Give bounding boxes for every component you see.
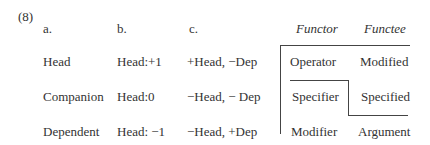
step-line-lower <box>348 115 408 116</box>
row-2-a: Companion <box>43 89 104 104</box>
row-3-b: Head: −1 <box>117 124 165 139</box>
row-3-functee: Argument <box>358 124 410 139</box>
row-1-functee: Modified <box>360 54 408 69</box>
row-3-a: Dependent <box>43 124 99 139</box>
example-number: (8) <box>18 9 33 24</box>
row-3-c: −Head, +Dep <box>187 124 257 139</box>
row-1-b: Head:+1 <box>117 54 162 69</box>
row-1-c: +Head, −Dep <box>187 54 257 69</box>
row-2-functee: Specified <box>361 89 410 104</box>
column-header-a: a. <box>43 21 52 36</box>
column-header-c: c. <box>189 21 198 36</box>
row-3-functor: Modifier <box>291 124 337 139</box>
top-rule <box>280 45 410 46</box>
column-header-b: b. <box>117 21 127 36</box>
row-2-functor: Specifier <box>292 89 339 104</box>
step-line-vertical <box>348 80 349 115</box>
column-header-functee: Functee <box>364 21 406 36</box>
column-header-functor: Functor <box>296 21 338 36</box>
row-2-c: −Head, − Dep <box>187 89 261 104</box>
vertical-divider <box>280 45 281 134</box>
step-line-upper <box>290 80 348 81</box>
row-1-a: Head <box>43 54 70 69</box>
row-2-b: Head:0 <box>117 89 155 104</box>
row-1-functor: Operator <box>290 54 336 69</box>
